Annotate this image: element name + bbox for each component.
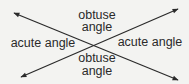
angle-diagram: obtuse angle acute angle acute angle obt… bbox=[0, 0, 189, 84]
bottom-obtuse-label-line2: angle bbox=[82, 64, 113, 78]
top-obtuse-label-line2: angle bbox=[82, 20, 113, 34]
left-acute-label: acute angle bbox=[11, 36, 76, 50]
right-acute-label: acute angle bbox=[118, 35, 183, 49]
bottom-obtuse-label-line1: obtuse bbox=[78, 51, 116, 65]
